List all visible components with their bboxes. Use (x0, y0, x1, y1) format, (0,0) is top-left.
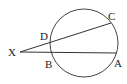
label-x: X (8, 46, 16, 58)
label-d: D (40, 30, 48, 42)
label-a: A (114, 57, 122, 69)
secant-diagram: X D C B A (0, 0, 127, 84)
label-b: B (45, 58, 52, 70)
label-c: C (108, 10, 115, 22)
secant-xa (20, 52, 117, 53)
secant-xc (20, 23, 111, 52)
